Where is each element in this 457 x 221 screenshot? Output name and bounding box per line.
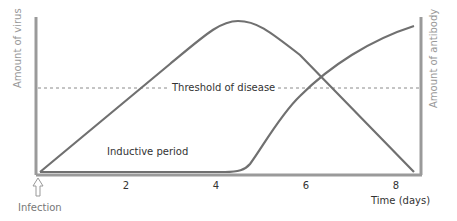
infection-label: Infection bbox=[18, 202, 62, 213]
antibody-curve bbox=[40, 26, 414, 172]
x-tick-4: 4 bbox=[213, 180, 219, 191]
y-axis-left-label: Amount of virus bbox=[12, 8, 23, 88]
x-tick-8: 8 bbox=[393, 180, 399, 191]
x-axis-label: Time (days) bbox=[371, 195, 430, 206]
threshold-label: Threshold of disease bbox=[172, 82, 275, 93]
inductive-period-label: Inductive period bbox=[107, 146, 188, 157]
chart-canvas bbox=[0, 0, 457, 221]
infection-arrow-icon bbox=[33, 178, 43, 196]
virus-curve bbox=[40, 21, 414, 172]
x-tick-2: 2 bbox=[123, 180, 129, 191]
x-tick-6: 6 bbox=[303, 180, 309, 191]
y-axis-right-label: Amount of antibody bbox=[428, 9, 439, 108]
